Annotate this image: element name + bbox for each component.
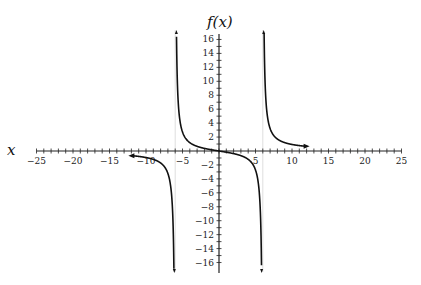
y-tick-label: −4 bbox=[201, 174, 215, 184]
y-tick-label: 12 bbox=[203, 62, 214, 72]
y-tick-label: 4 bbox=[208, 118, 214, 128]
y-tick-label: −8 bbox=[201, 202, 215, 212]
y-tick-label: −6 bbox=[201, 188, 215, 198]
x-tick-label: −15 bbox=[100, 156, 119, 166]
y-axis-title: f(x) bbox=[206, 13, 233, 31]
x-tick-label: −20 bbox=[64, 156, 83, 166]
y-tick-label: 10 bbox=[203, 76, 215, 86]
x-tick-label: 15 bbox=[323, 156, 335, 166]
x-tick-label: −25 bbox=[27, 156, 46, 166]
function-graph: −25−20−15−10−5510152025 161412108642−2−4… bbox=[0, 0, 421, 285]
y-tick-label: −16 bbox=[195, 258, 214, 268]
y-tick-label: 14 bbox=[203, 48, 215, 58]
y-tick-label: 16 bbox=[203, 34, 215, 44]
y-tick-label: −12 bbox=[195, 230, 214, 240]
x-tick-label: 25 bbox=[396, 156, 408, 166]
x-axis-title: x bbox=[7, 141, 16, 159]
left-arrow-icon bbox=[128, 153, 134, 158]
right-arrow-icon bbox=[304, 144, 310, 149]
right-branch-curve bbox=[264, 33, 306, 146]
y-tick-label: −10 bbox=[195, 216, 214, 226]
y-tick-label: 8 bbox=[208, 90, 214, 100]
y-axis: 161412108642−2−4−6−8−10−12−14−16 bbox=[195, 34, 222, 273]
x-tick-label: 10 bbox=[286, 156, 298, 166]
x-tick-label: 20 bbox=[359, 156, 371, 166]
left-branch-curve bbox=[131, 156, 173, 269]
y-tick-label: −14 bbox=[195, 244, 214, 254]
y-tick-label: 6 bbox=[208, 104, 214, 114]
x-tick-label: −5 bbox=[176, 156, 190, 166]
y-tick-label: 2 bbox=[208, 132, 214, 142]
y-tick-label: −2 bbox=[201, 160, 214, 170]
